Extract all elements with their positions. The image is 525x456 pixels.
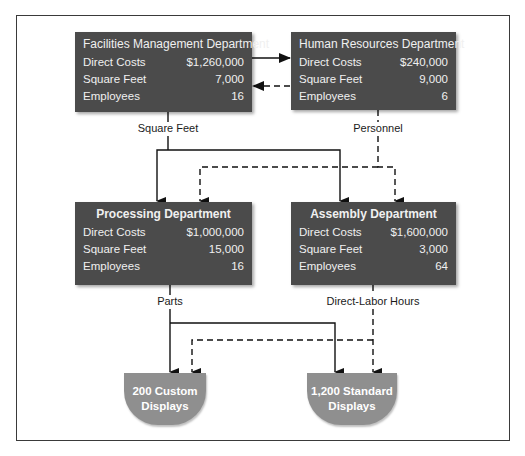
department-title: Assembly Department xyxy=(299,207,448,221)
employees-row: Employees 16 xyxy=(83,88,244,105)
square-feet-row: Square Feet 15,000 xyxy=(83,241,244,258)
department-title: Human Resources Department xyxy=(299,37,448,51)
employees-row: Employees 16 xyxy=(83,258,244,275)
hr-department-box: Human Resources Department Direct Costs … xyxy=(291,32,456,110)
product-standard-displays: 1,200 Standard Displays xyxy=(307,373,397,425)
direct-costs-row: Direct Costs $1,260,000 xyxy=(83,54,244,71)
square-feet-row: Square Feet 9,000 xyxy=(299,71,448,88)
square-feet-row: Square Feet 7,000 xyxy=(83,71,244,88)
direct-costs-row: Direct Costs $1,600,000 xyxy=(299,224,448,241)
arrow-sqft-to-processing xyxy=(157,150,168,201)
allocation-label-personnel: Personnel xyxy=(351,122,405,134)
department-title: Processing Department xyxy=(83,207,244,221)
processing-department-box: Processing Department Direct Costs $1,00… xyxy=(75,202,252,285)
facilities-department-box: Facilities Management Department Direct … xyxy=(75,32,252,112)
employees-row: Employees 6 xyxy=(299,88,448,105)
arrow-personnel-to-processing xyxy=(200,167,378,201)
allocation-label-parts: Parts xyxy=(155,295,185,307)
arrow-sqft-to-assembly xyxy=(168,150,340,201)
assembly-department-box: Assembly Department Direct Costs $1,600,… xyxy=(291,202,456,285)
arrow-dlh-to-custom xyxy=(192,340,373,372)
employees-row: Employees 64 xyxy=(299,258,448,275)
arrow-parts-to-standard xyxy=(170,323,335,372)
allocation-label-square-feet: Square Feet xyxy=(136,122,201,134)
allocation-label-direct-labor-hours: Direct-Labor Hours xyxy=(325,295,422,307)
square-feet-row: Square Feet 3,000 xyxy=(299,241,448,258)
direct-costs-row: Direct Costs $240,000 xyxy=(299,54,448,71)
department-title: Facilities Management Department xyxy=(83,37,244,51)
direct-costs-row: Direct Costs $1,000,000 xyxy=(83,224,244,241)
